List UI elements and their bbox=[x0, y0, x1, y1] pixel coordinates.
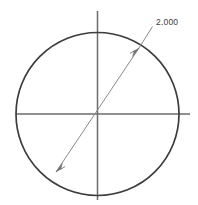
arrowhead-lower-left-icon bbox=[55, 163, 65, 172]
cad-drawing-canvas: 2.000 bbox=[0, 0, 198, 205]
arrowhead-upper-right-icon bbox=[130, 48, 140, 57]
dimension-value-label: 2.000 bbox=[156, 17, 178, 27]
cad-drawing-svg: 2.000 bbox=[0, 0, 198, 205]
dimension-leader-line bbox=[139, 27, 153, 49]
